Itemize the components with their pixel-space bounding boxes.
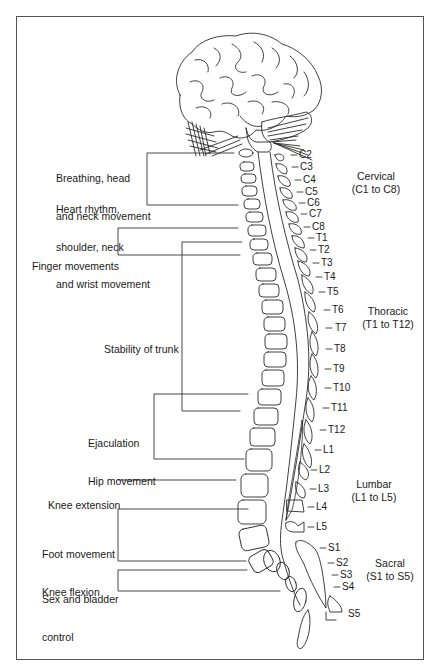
function-label-sex-bladder: Sex and bladder control bbox=[42, 568, 118, 656]
segment-label: L1 bbox=[323, 444, 334, 455]
region-label-sacral: Sacral (S1 to S5) bbox=[362, 557, 418, 582]
label-line: Sex and bladder bbox=[42, 593, 118, 606]
segment-label: C2 bbox=[299, 149, 312, 160]
label-line: control bbox=[42, 631, 118, 644]
segment-label: S5 bbox=[348, 608, 360, 619]
region-name: Sacral bbox=[362, 557, 418, 570]
segment-label: T3 bbox=[321, 257, 333, 268]
segment-label: T11 bbox=[331, 402, 348, 413]
segment-label: S4 bbox=[342, 581, 354, 592]
spinal-cord bbox=[258, 152, 309, 605]
segment-label: C3 bbox=[300, 161, 313, 172]
segment-label: T10 bbox=[333, 382, 350, 393]
segment-label: L4 bbox=[316, 501, 327, 512]
region-label-cervical: Cervical (C1 to C8) bbox=[340, 170, 412, 195]
segment-label: S1 bbox=[328, 542, 340, 553]
region-label-lumbar: Lumbar (L1 to L5) bbox=[344, 478, 404, 503]
brain-icon bbox=[176, 33, 321, 160]
region-range: (C1 to C8) bbox=[340, 183, 412, 196]
function-label-finger: Finger movements bbox=[32, 235, 119, 285]
segment-label: T1 bbox=[316, 232, 328, 243]
segment-label: T5 bbox=[327, 286, 339, 297]
label-line: Foot movement bbox=[42, 548, 115, 561]
vertebral-bodies bbox=[238, 149, 310, 649]
label-line: Finger movements bbox=[32, 260, 119, 273]
segment-label: T6 bbox=[332, 304, 344, 315]
label-line: Knee extension bbox=[48, 499, 120, 512]
segment-label: C8 bbox=[312, 221, 325, 232]
segment-label: C7 bbox=[309, 208, 322, 219]
label-line: Stability of trunk bbox=[104, 343, 179, 356]
segment-label: L3 bbox=[318, 483, 329, 494]
segment-label: C4 bbox=[303, 174, 316, 185]
region-range: (L1 to L5) bbox=[344, 491, 404, 504]
segment-label: T8 bbox=[334, 343, 346, 354]
segment-label: C5 bbox=[305, 186, 318, 197]
region-name: Lumbar bbox=[344, 478, 404, 491]
segment-label: T4 bbox=[324, 271, 336, 282]
segment-label: S3 bbox=[340, 569, 352, 580]
label-line: Ejaculation bbox=[88, 437, 156, 450]
segment-label: S2 bbox=[336, 557, 348, 568]
segment-label: L2 bbox=[319, 464, 330, 475]
segment-label: T12 bbox=[328, 424, 345, 435]
segment-label: T2 bbox=[318, 244, 330, 255]
label-line: Heart rhythm, bbox=[56, 203, 150, 216]
function-label-trunk: Stability of trunk bbox=[104, 318, 179, 368]
segment-label: T9 bbox=[333, 363, 345, 374]
function-label-knee-extension: Knee extension bbox=[48, 474, 120, 524]
region-range: (S1 to S5) bbox=[362, 570, 418, 583]
region-label-thoracic: Thoracic (T1 to T12) bbox=[358, 305, 418, 330]
region-name: Thoracic bbox=[358, 305, 418, 318]
segment-label: C6 bbox=[307, 197, 320, 208]
region-range: (T1 to T12) bbox=[358, 318, 418, 331]
segment-label: L5 bbox=[316, 521, 327, 532]
segment-label: T7 bbox=[335, 322, 347, 333]
region-name: Cervical bbox=[340, 170, 412, 183]
